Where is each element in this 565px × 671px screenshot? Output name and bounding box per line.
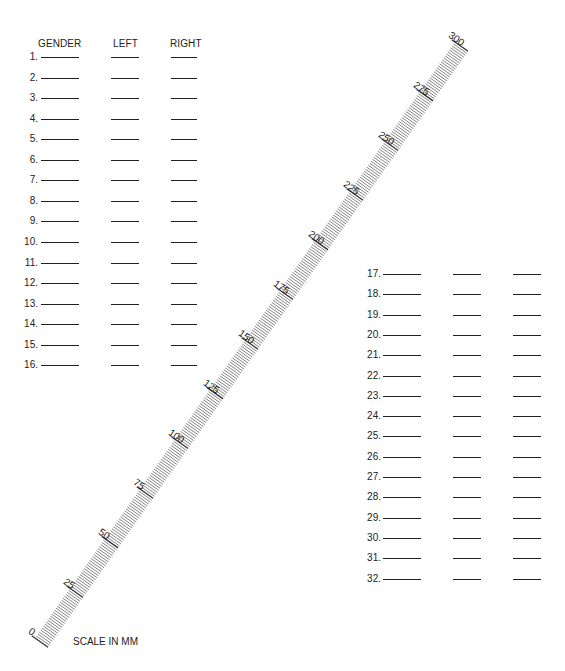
ruler-label: 0 <box>26 625 37 637</box>
scale-caption: SCALE IN MM <box>73 636 138 647</box>
ruler-label: 300 <box>446 29 466 48</box>
major-tick <box>32 636 48 648</box>
mm-scale-ruler: 0255075100125150175200225250275300 <box>0 0 565 671</box>
